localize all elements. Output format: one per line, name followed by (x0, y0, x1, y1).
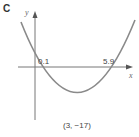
y-axis-label: y (24, 8, 29, 17)
x-axis-arrow-icon (126, 65, 133, 70)
x-axis-label: x (128, 71, 133, 80)
y-axis-arrow-icon (33, 11, 38, 18)
chart: y x 0.1 5.9 (3, −17) (0, 0, 139, 137)
root-left-label: 0.1 (38, 57, 50, 66)
root-right-label: 5.9 (103, 57, 115, 66)
vertex-label: (3, −17) (63, 121, 91, 130)
